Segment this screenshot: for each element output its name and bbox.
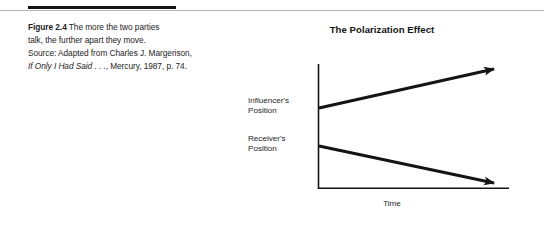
y-label-influencer: Influencer's Position [248, 96, 312, 117]
caption-line-3: Source: Adapted from Charles J. Margeris… [28, 47, 228, 60]
series-line-receiver [319, 146, 494, 183]
y-label-receiver: Receiver's Position [248, 134, 312, 155]
caption-line-2: talk, the further apart they move. [28, 34, 228, 47]
figure-number: Figure 2.4 [28, 22, 67, 32]
header-divider-thin [0, 10, 544, 11]
caption-source-rest: , Mercury, 1987, p. 74. [106, 61, 187, 71]
chart-canvas [232, 16, 532, 221]
polarization-chart: The Polarization Effect Influencer's Pos… [232, 16, 532, 221]
figure-caption: Figure 2.4 The more the two parties talk… [28, 21, 228, 73]
header-divider-thick [28, 6, 176, 9]
caption-line-4: If Only I Had Said . . ., Mercury, 1987,… [28, 60, 228, 73]
figure-page: Figure 2.4 The more the two parties talk… [0, 0, 544, 229]
caption-line-1: Figure 2.4 The more the two parties [28, 21, 228, 34]
caption-text-1: The more the two parties [67, 22, 160, 32]
series-line-influencer [319, 69, 494, 108]
x-axis-label: Time [352, 199, 432, 209]
caption-source-title: If Only I Had Said . . . [28, 61, 106, 71]
